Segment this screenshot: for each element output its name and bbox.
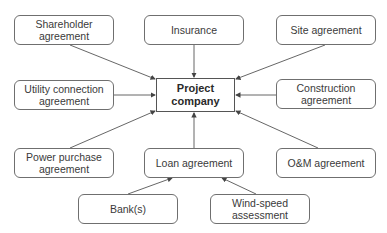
node-label: Power purchase agreement	[18, 151, 110, 175]
node-label: Site agreement	[290, 24, 361, 36]
edge-shareholder-project	[70, 45, 155, 79]
node-construction-agreement: Construction agreement	[276, 79, 376, 109]
center-label: Project company	[160, 82, 231, 108]
edge-ppa-project	[70, 111, 155, 148]
node-label: Loan agreement	[156, 157, 232, 169]
node-banks: Bank(s)	[78, 194, 178, 224]
edge-site-project	[236, 45, 325, 79]
edge-wind-loan	[222, 178, 256, 194]
node-wind-speed-assessment: Wind-speed assessment	[210, 194, 310, 224]
node-label: Utility connection agreement	[18, 83, 110, 107]
node-utility-connection-agreement: Utility connection agreement	[14, 80, 114, 110]
node-label: Insurance	[171, 24, 217, 36]
node-loan-agreement: Loan agreement	[144, 148, 244, 178]
node-label: Wind-speed assessment	[214, 197, 306, 221]
node-site-agreement: Site agreement	[276, 15, 376, 45]
node-label: Bank(s)	[110, 203, 146, 215]
node-label: Shareholder agreement	[18, 18, 110, 42]
node-insurance: Insurance	[144, 15, 244, 45]
node-shareholder-agreement: Shareholder agreement	[14, 15, 114, 45]
edge-bank-loan	[128, 178, 172, 194]
edge-om-project	[236, 111, 318, 148]
node-label: O&M agreement	[287, 157, 364, 169]
node-label: Construction agreement	[280, 82, 372, 106]
node-om-agreement: O&M agreement	[276, 148, 376, 178]
node-power-purchase-agreement: Power purchase agreement	[14, 148, 114, 178]
node-project-company: Project company	[156, 78, 235, 112]
